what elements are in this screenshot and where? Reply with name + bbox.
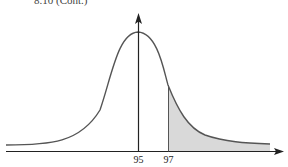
tick-label-97: 97 (164, 154, 174, 165)
tick-label-95: 95 (134, 154, 144, 165)
shaded-tail-region (168, 85, 270, 151)
normal-curve-diagram: 95 97 (0, 0, 288, 167)
